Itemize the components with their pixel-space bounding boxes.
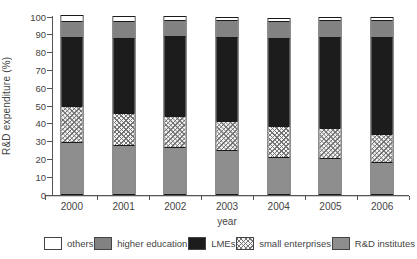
legend-label: R&D institutes: [355, 238, 415, 249]
segment-higher-education: [61, 21, 82, 36]
x-category-labels: 2000200120022003200420052006: [46, 201, 408, 212]
stacked-bar-2004: [267, 18, 290, 195]
x-tick: [97, 196, 98, 200]
legend-item-higher-education: higher education: [94, 237, 187, 250]
segment-higher-education: [165, 20, 186, 36]
y-tick-label: 10: [20, 172, 46, 183]
y-tick-label: 40: [20, 118, 46, 129]
y-tick: [47, 106, 52, 107]
y-tick: [47, 177, 52, 178]
y-tick-label: 60: [20, 83, 46, 94]
segment-r-d-institutes: [372, 162, 393, 194]
x-tick: [409, 196, 410, 200]
segment-small-enterprises: [320, 128, 341, 158]
segment-small-enterprises: [217, 121, 238, 150]
x-tick-label: 2004: [253, 201, 305, 212]
segment-lmes: [268, 38, 289, 126]
x-axis-title: year: [46, 216, 408, 227]
bar-slot-2006: [356, 17, 408, 195]
segment-r-d-institutes: [165, 147, 186, 194]
segment-lmes: [61, 37, 82, 106]
x-tick: [305, 196, 306, 200]
legend-swatch: [44, 237, 62, 250]
legend-swatch: [332, 237, 350, 250]
legend-item-r-d-institutes: R&D institutes: [332, 237, 415, 250]
y-tick-label: 100: [20, 12, 46, 23]
segment-small-enterprises: [372, 134, 393, 163]
y-tick: [47, 70, 52, 71]
x-tick: [201, 196, 202, 200]
y-tick-label: 0: [20, 190, 46, 201]
y-tick: [47, 88, 52, 89]
legend-label: higher education: [117, 238, 187, 249]
y-tick: [47, 52, 52, 53]
bar-slot-2001: [98, 17, 150, 195]
y-tick-label: 20: [20, 154, 46, 165]
x-tick-label: 2003: [201, 201, 253, 212]
y-tick-label: 30: [20, 136, 46, 147]
segment-higher-education: [320, 20, 341, 38]
y-axis-title: R&D expenditure (%): [1, 8, 14, 204]
x-axis-line: [45, 195, 409, 196]
segment-higher-education: [217, 20, 238, 37]
plot-area: [46, 17, 408, 195]
y-tick-label: 50: [20, 101, 46, 112]
stacked-bar-2005: [319, 17, 342, 195]
stacked-bar-2002: [164, 16, 187, 195]
x-tick-label: 2005: [305, 201, 357, 212]
legend-item-lmes: LMEs: [188, 237, 235, 250]
legend-label: LMEs: [211, 238, 235, 249]
bar-slot-2000: [46, 17, 98, 195]
segment-lmes: [113, 38, 134, 113]
segment-lmes: [372, 37, 393, 134]
x-tick: [357, 196, 358, 200]
y-tick-label: 90: [20, 29, 46, 40]
segment-r-d-institutes: [320, 158, 341, 194]
y-tick: [47, 123, 52, 124]
segment-small-enterprises: [113, 113, 134, 145]
segment-r-d-institutes: [61, 142, 82, 194]
bar-slot-2002: [149, 17, 201, 195]
x-tick: [45, 196, 46, 200]
legend-swatch: [94, 237, 112, 250]
segment-lmes: [320, 37, 341, 128]
stacked-bar-2006: [371, 17, 394, 195]
x-tick: [253, 196, 254, 200]
y-tick-label: 70: [20, 65, 46, 76]
y-tick-label: 80: [20, 47, 46, 58]
segment-lmes: [165, 36, 186, 115]
segment-r-d-institutes: [268, 157, 289, 194]
legend-item-others: others: [44, 237, 93, 250]
y-tick: [47, 195, 52, 196]
y-tick: [47, 17, 52, 18]
stacked-bar-2000: [60, 15, 83, 195]
legend-label: small enterprises: [259, 238, 331, 249]
bar-slot-2003: [201, 17, 253, 195]
x-tick-label: 2006: [356, 201, 408, 212]
legend-swatch: [188, 237, 206, 250]
bar-slot-2004: [253, 17, 305, 195]
segment-higher-education: [372, 20, 393, 37]
y-tick: [47, 34, 52, 35]
segment-r-d-institutes: [217, 150, 238, 194]
segment-higher-education: [268, 21, 289, 38]
stacked-bar-2001: [112, 16, 135, 195]
segment-small-enterprises: [165, 116, 186, 147]
x-tick-label: 2001: [98, 201, 150, 212]
legend-label: others: [67, 238, 93, 249]
stacked-bar-2003: [216, 17, 239, 195]
y-tick: [47, 141, 52, 142]
x-tick-label: 2000: [46, 201, 98, 212]
chart-figure: R&D expenditure (%) 20002001200220032004…: [0, 0, 417, 259]
segment-higher-education: [113, 21, 134, 38]
segment-r-d-institutes: [113, 145, 134, 194]
legend: othershigher educationLMEssmall enterpri…: [44, 237, 415, 250]
bar-slot-2005: [305, 17, 357, 195]
x-tick: [149, 196, 150, 200]
legend-item-small-enterprises: small enterprises: [236, 237, 331, 250]
y-tick: [47, 159, 52, 160]
x-tick-label: 2002: [149, 201, 201, 212]
segment-lmes: [217, 37, 238, 121]
segment-small-enterprises: [61, 106, 82, 143]
legend-swatch: [236, 237, 254, 250]
